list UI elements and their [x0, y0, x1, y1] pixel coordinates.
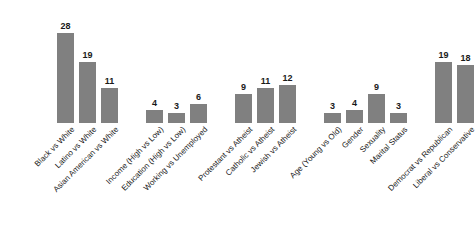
bar-value-label: 19: [438, 50, 448, 60]
bar-group-political: 1918: [0, 0, 413, 123]
bar[interactable]: [457, 65, 474, 123]
bar-slot[interactable]: 19: [435, 27, 452, 123]
bar[interactable]: [435, 62, 452, 123]
plot-area: 2819114369111234931918: [0, 0, 413, 123]
bar-slot[interactable]: 18: [457, 27, 474, 123]
tick-label-area: Black vs WhiteLatino vs WhiteAsian Ameri…: [0, 123, 413, 234]
bar-value-label: 18: [460, 53, 470, 63]
